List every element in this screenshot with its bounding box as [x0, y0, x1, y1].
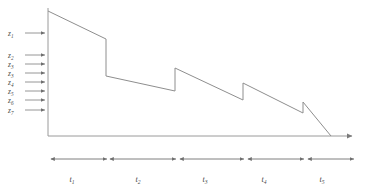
interval-label-t5: t5	[319, 175, 324, 185]
level-labels-group: z1 z2 z3 z3 z4 z5 z6 z7	[7, 29, 14, 116]
interval-label-t3: t3	[202, 175, 207, 185]
axes-group	[48, 8, 352, 136]
level-label-z6: z6	[7, 96, 14, 106]
level-label-z7: z7	[7, 106, 14, 116]
depletion-curve	[48, 11, 331, 136]
depletion-curve-group	[48, 11, 331, 136]
interval-label-t1: t1	[69, 175, 74, 185]
level-label-z1: z1	[7, 29, 14, 39]
figure-container: z1 z2 z3 z3 z4 z5 z6 z7 t1 t2 t3 t4 t5	[0, 0, 365, 194]
interval-label-t4: t4	[261, 175, 266, 185]
sawtooth-diagram: z1 z2 z3 z3 z4 z5 z6 z7 t1 t2 t3 t4 t5	[0, 0, 365, 194]
interval-label-t2: t2	[135, 175, 140, 185]
interval-labels-group: t1 t2 t3 t4 t5	[69, 175, 324, 185]
level-arrows-group	[25, 33, 45, 110]
